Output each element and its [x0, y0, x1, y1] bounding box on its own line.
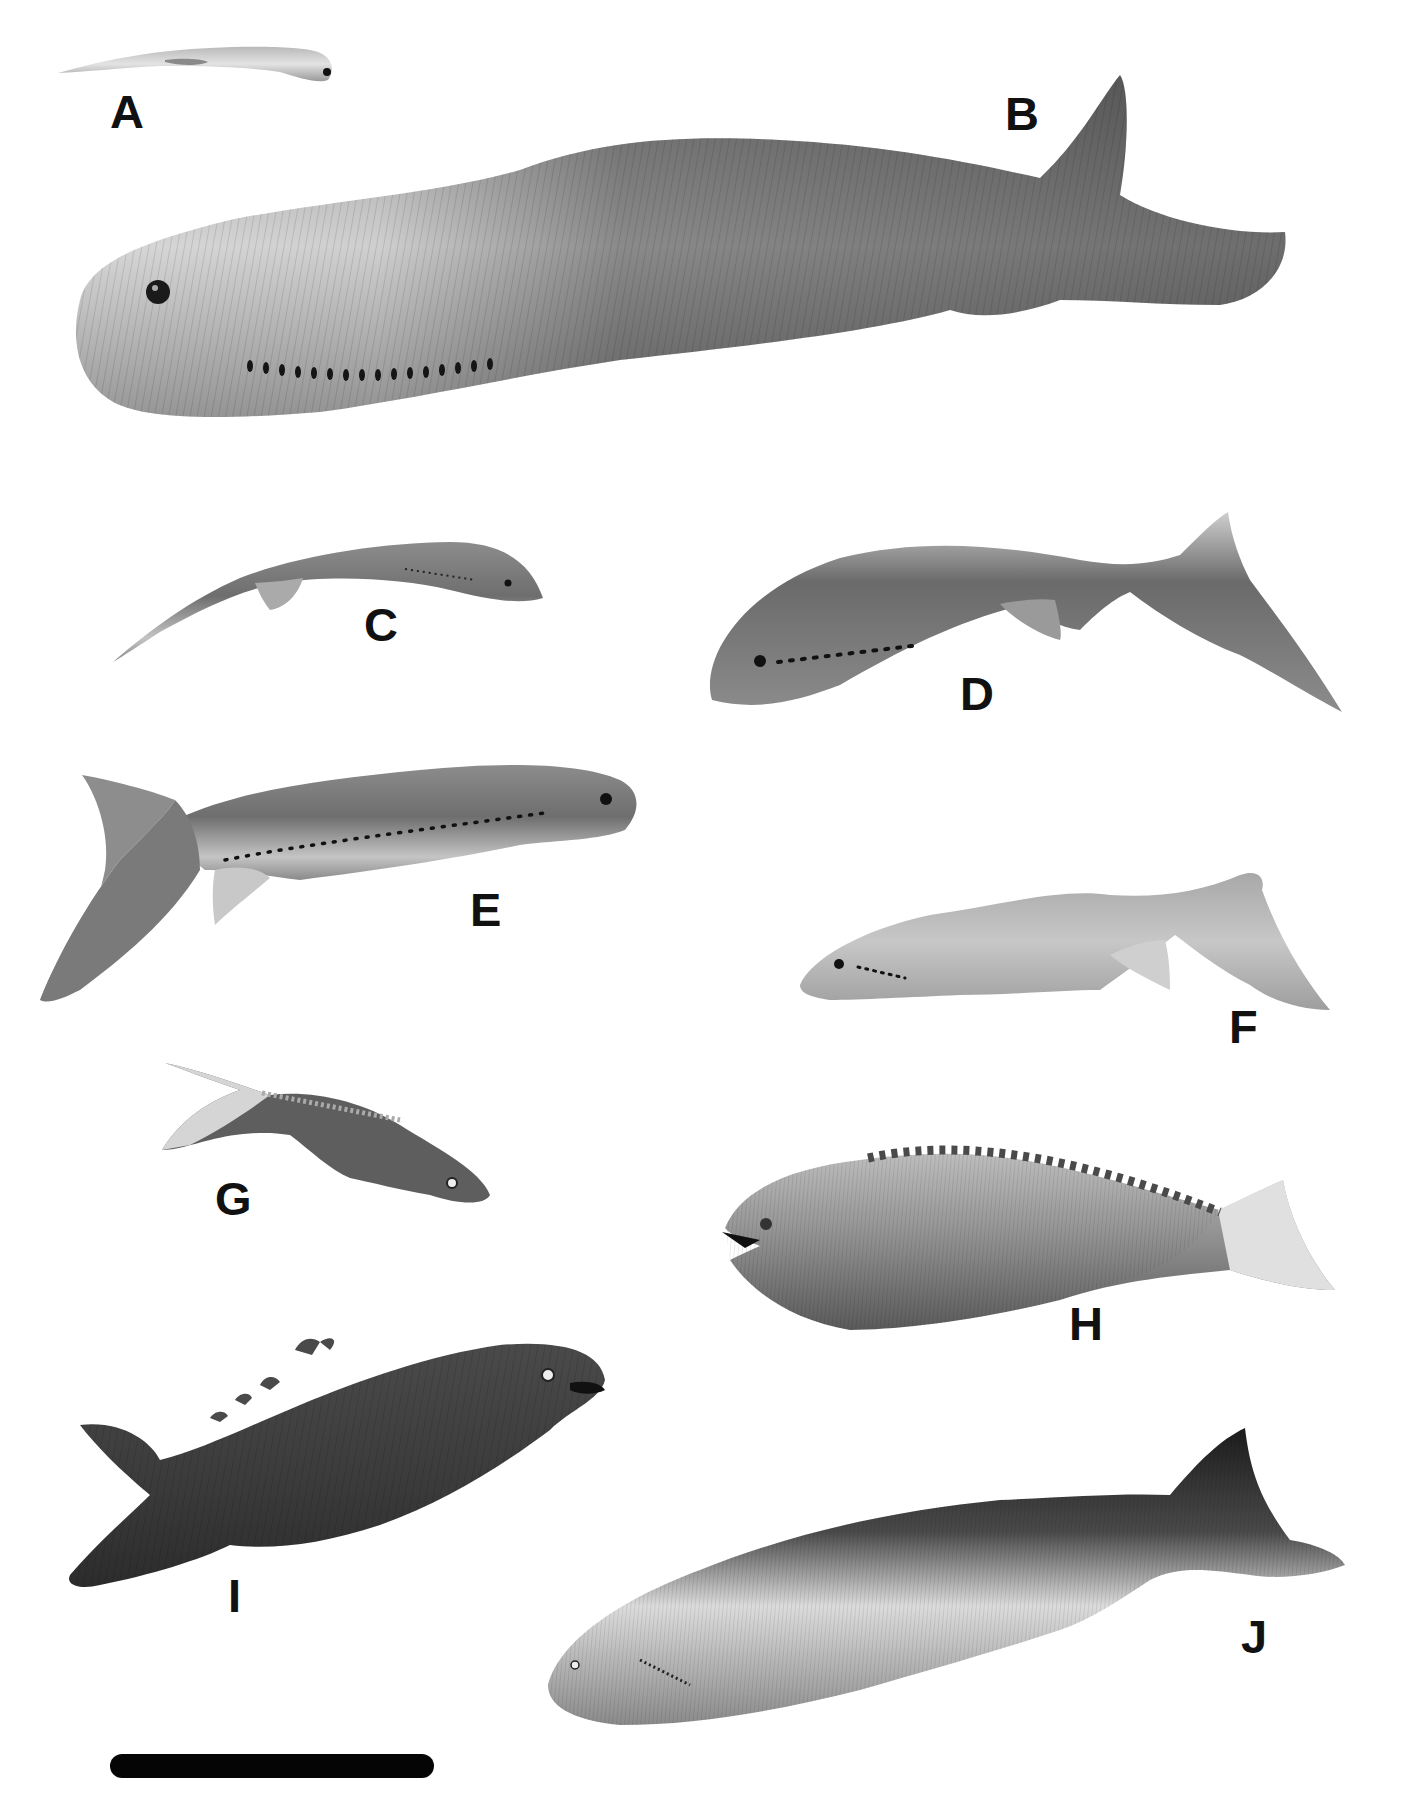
eye-icon	[323, 68, 331, 76]
specimen-label-h: H	[1069, 1300, 1103, 1347]
specimen-h	[722, 1150, 1335, 1330]
scale-bar	[110, 1754, 434, 1778]
specimen-i	[69, 1338, 605, 1587]
specimen-label-d: D	[960, 670, 994, 717]
specimen-g	[162, 1063, 490, 1203]
specimen-c	[113, 542, 543, 662]
specimen-label-b: B	[1005, 90, 1039, 137]
specimen-e	[40, 765, 636, 1002]
specimen-label-i: I	[228, 1572, 241, 1619]
specimen-a	[58, 47, 332, 81]
specimen-label-g: G	[215, 1175, 252, 1222]
specimen-d	[710, 512, 1342, 712]
eye-icon	[542, 1369, 554, 1381]
eye-icon	[571, 1661, 579, 1669]
eye-icon	[754, 655, 766, 667]
eye-icon	[760, 1218, 772, 1230]
eye-icon	[505, 580, 512, 587]
specimen-label-a: A	[110, 88, 144, 135]
figure-plate: A B C D E F G H I J	[0, 0, 1428, 1814]
specimen-label-f: F	[1229, 1003, 1258, 1050]
specimen-label-c: C	[364, 601, 398, 648]
specimen-illustrations	[0, 0, 1428, 1814]
specimen-b	[76, 75, 1286, 417]
eye-icon	[600, 793, 612, 805]
eye-icon	[447, 1178, 457, 1188]
specimen-label-j: J	[1241, 1613, 1267, 1660]
specimen-label-e: E	[470, 886, 501, 933]
specimen-j	[548, 1428, 1345, 1725]
eye-icon	[146, 280, 170, 304]
specimen-f	[800, 873, 1330, 1010]
eye-icon	[834, 959, 844, 969]
